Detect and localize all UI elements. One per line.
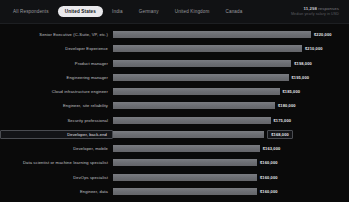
response-count-value: 11,298	[303, 6, 317, 11]
bar-row[interactable]: Developer Experience$210,000	[0, 43, 345, 54]
response-count-suffix: responses	[318, 6, 339, 11]
bar-zone: $160,000	[113, 157, 345, 168]
bar[interactable]	[113, 31, 311, 38]
bar-row[interactable]: Product manager$198,000	[0, 58, 345, 69]
bar-zone: $175,000	[113, 115, 345, 126]
header-stats: 11,298 responses Median yearly salary in…	[291, 6, 343, 17]
bar-row[interactable]: Developer, mobile$163,000	[0, 143, 345, 154]
bar-row-label: Cloud infrastructure engineer	[0, 89, 113, 94]
bar-value-label: $160,000	[260, 189, 278, 194]
bar-row[interactable]: Data scientist or machine learning speci…	[0, 157, 345, 168]
salary-chart-app: All RespondentsUnited StatesIndiaGermany…	[0, 0, 349, 202]
bar[interactable]	[113, 145, 260, 152]
bar-zone: $195,000	[113, 72, 345, 83]
bar-zone: $163,000	[113, 143, 345, 154]
bar-zone: $160,000	[113, 172, 345, 183]
bar[interactable]	[113, 45, 302, 52]
bar[interactable]	[113, 117, 271, 124]
bar-value-label: $210,000	[305, 46, 323, 51]
bar-row-label: DevOps specialist	[0, 175, 113, 180]
bar-zone: $185,000	[113, 86, 345, 97]
bar-value-label: $180,000	[278, 103, 296, 108]
bar-value-label: $175,000	[274, 118, 292, 123]
bar-row[interactable]: Engineer, site reliability$180,000	[0, 100, 345, 111]
bar-zone: $168,000	[113, 129, 345, 140]
bar[interactable]	[113, 159, 257, 166]
bar-row[interactable]: Developer, back-end$168,000	[0, 129, 345, 140]
stats-subtitle: Median yearly salary in USD	[291, 12, 339, 17]
bar-value-label: $163,000	[263, 146, 281, 151]
bar[interactable]	[113, 74, 289, 81]
bar-zone: $220,000	[113, 29, 345, 40]
bar-row-label: Senior Executive (C-Suite, VP, etc.)	[0, 32, 113, 37]
bar-zone: $160,000	[113, 186, 345, 197]
bar-value-label: $160,000	[260, 160, 278, 165]
country-tab-list: All RespondentsUnited StatesIndiaGermany…	[6, 6, 291, 17]
bar-row-label: Product manager	[0, 61, 113, 66]
bar-zone: $180,000	[113, 100, 345, 111]
bar-row-list: Senior Executive (C-Suite, VP, etc.)$220…	[0, 29, 345, 197]
bar-value-label: $195,000	[292, 75, 310, 80]
bar-row[interactable]: Cloud infrastructure engineer$185,000	[0, 86, 345, 97]
bar[interactable]	[113, 60, 291, 67]
bar-zone: $210,000	[113, 43, 345, 54]
tab-united-kingdom[interactable]: United Kingdom	[168, 6, 217, 17]
bar-zone: $198,000	[113, 58, 345, 69]
bar-row-label: Security professional	[0, 118, 113, 123]
bar-row[interactable]: DevOps specialist$160,000	[0, 172, 345, 183]
bar-row-label: Engineer, data	[0, 189, 113, 194]
bar[interactable]	[113, 102, 275, 109]
tab-canada[interactable]: Canada	[218, 6, 249, 17]
tab-germany[interactable]: Germany	[132, 6, 166, 17]
bar-row-label: Developer Experience	[0, 46, 113, 51]
bar-value-label: $160,000	[260, 175, 278, 180]
bar-row-label: Engineering manager	[0, 75, 113, 80]
tab-all-respondents[interactable]: All Respondents	[6, 6, 56, 17]
bar-row-label: Engineer, site reliability	[0, 103, 113, 108]
bar-row[interactable]: Engineer, data$160,000	[0, 186, 345, 197]
bar[interactable]	[113, 88, 280, 95]
bar[interactable]	[113, 188, 257, 195]
bar[interactable]	[113, 174, 257, 181]
tab-india[interactable]: India	[105, 6, 130, 17]
bar[interactable]	[113, 131, 264, 138]
header-bar: All RespondentsUnited StatesIndiaGermany…	[0, 0, 349, 24]
bar-value-label: $185,000	[283, 89, 301, 94]
bar-row[interactable]: Senior Executive (C-Suite, VP, etc.)$220…	[0, 29, 345, 40]
bar-row-label: Data scientist or machine learning speci…	[0, 160, 113, 165]
bar-value-label: $198,000	[294, 61, 312, 66]
bar-value-label: $220,000	[314, 32, 332, 37]
chart-area: Senior Executive (C-Suite, VP, etc.)$220…	[0, 24, 349, 202]
bar-row[interactable]: Security professional$175,000	[0, 115, 345, 126]
tab-united-states[interactable]: United States	[58, 6, 103, 17]
bar-row[interactable]: Engineering manager$195,000	[0, 72, 345, 83]
bar-row-label: Developer, mobile	[0, 146, 113, 151]
bar-row-label: Developer, back-end	[0, 130, 113, 139]
bar-value-label: $168,000	[267, 130, 293, 139]
